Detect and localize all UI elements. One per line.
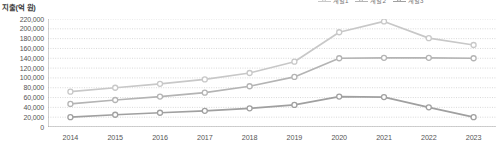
data-point[interactable] bbox=[158, 94, 163, 99]
series-line bbox=[70, 58, 473, 104]
data-point[interactable] bbox=[426, 105, 431, 110]
x-tick-label: 2021 bbox=[364, 133, 404, 142]
legend-label: 계열3 bbox=[408, 0, 423, 5]
data-point[interactable] bbox=[337, 30, 342, 35]
legend-item-0[interactable]: 계열1 bbox=[318, 0, 348, 5]
x-tick-label: 2017 bbox=[185, 133, 225, 142]
data-point[interactable] bbox=[247, 71, 252, 76]
data-point[interactable] bbox=[382, 19, 387, 24]
legend-item-1[interactable]: 계열2 bbox=[355, 0, 385, 5]
x-tick-label: 2023 bbox=[454, 133, 494, 142]
data-point[interactable] bbox=[382, 95, 387, 100]
data-point[interactable] bbox=[471, 43, 476, 48]
data-point[interactable] bbox=[471, 115, 476, 120]
data-point[interactable] bbox=[68, 115, 73, 120]
data-point[interactable] bbox=[337, 56, 342, 61]
data-point[interactable] bbox=[68, 89, 73, 94]
data-point[interactable] bbox=[471, 56, 476, 61]
y-tick-label: 60,000 bbox=[0, 94, 44, 101]
data-point[interactable] bbox=[113, 98, 118, 103]
legend-marker-icon bbox=[318, 0, 331, 5]
y-tick-label: 120,000 bbox=[0, 65, 44, 72]
data-point[interactable] bbox=[158, 110, 163, 115]
y-tick-label: 40,000 bbox=[0, 104, 44, 111]
data-point[interactable] bbox=[113, 112, 118, 117]
data-point[interactable] bbox=[202, 108, 207, 113]
legend-marker-icon bbox=[393, 0, 406, 5]
chart-screenshot: 지출(억 원) 계열1 계열2 계열3 220,000200,000180,00… bbox=[0, 0, 500, 151]
x-tick-label: 2019 bbox=[274, 133, 314, 142]
x-tick-label: 2018 bbox=[230, 133, 270, 142]
y-tick-label: 0 bbox=[0, 124, 44, 131]
data-point[interactable] bbox=[292, 59, 297, 64]
legend-marker-icon bbox=[355, 0, 368, 5]
data-point[interactable] bbox=[68, 101, 73, 106]
series-1 bbox=[68, 55, 476, 106]
series-line bbox=[70, 97, 473, 118]
data-point[interactable] bbox=[247, 106, 252, 111]
y-tick-label: 20,000 bbox=[0, 114, 44, 121]
data-point[interactable] bbox=[337, 94, 342, 99]
x-tick-label: 2022 bbox=[409, 133, 449, 142]
data-point[interactable] bbox=[247, 84, 252, 89]
chart-canvas bbox=[48, 19, 496, 127]
x-tick-label: 2016 bbox=[140, 133, 180, 142]
data-point[interactable] bbox=[426, 55, 431, 60]
x-tick-label: 2014 bbox=[50, 133, 90, 142]
legend-label: 계열2 bbox=[370, 0, 385, 5]
series-2 bbox=[68, 94, 476, 120]
data-point[interactable] bbox=[292, 102, 297, 107]
y-tick-label: 140,000 bbox=[0, 55, 44, 62]
chart-legend: 계열1 계열2 계열3 bbox=[318, 0, 423, 7]
x-tick-label: 2020 bbox=[319, 133, 359, 142]
legend-label: 계열1 bbox=[333, 0, 348, 5]
x-tick-label: 2015 bbox=[95, 133, 135, 142]
y-axis-title: 지출(억 원) bbox=[2, 1, 36, 12]
series-0 bbox=[68, 19, 476, 94]
y-tick-label: 200,000 bbox=[0, 25, 44, 32]
y-tick-label: 100,000 bbox=[0, 74, 44, 81]
data-point[interactable] bbox=[202, 77, 207, 82]
y-tick-label: 160,000 bbox=[0, 45, 44, 52]
data-point[interactable] bbox=[382, 55, 387, 60]
data-point[interactable] bbox=[202, 90, 207, 95]
data-point[interactable] bbox=[426, 36, 431, 41]
data-point[interactable] bbox=[158, 81, 163, 86]
y-tick-label: 180,000 bbox=[0, 35, 44, 42]
plot-area bbox=[48, 19, 496, 127]
y-tick-label: 80,000 bbox=[0, 84, 44, 91]
y-tick-label: 220,000 bbox=[0, 16, 44, 23]
legend-item-2[interactable]: 계열3 bbox=[393, 0, 423, 5]
data-point[interactable] bbox=[292, 74, 297, 79]
data-point[interactable] bbox=[113, 85, 118, 90]
